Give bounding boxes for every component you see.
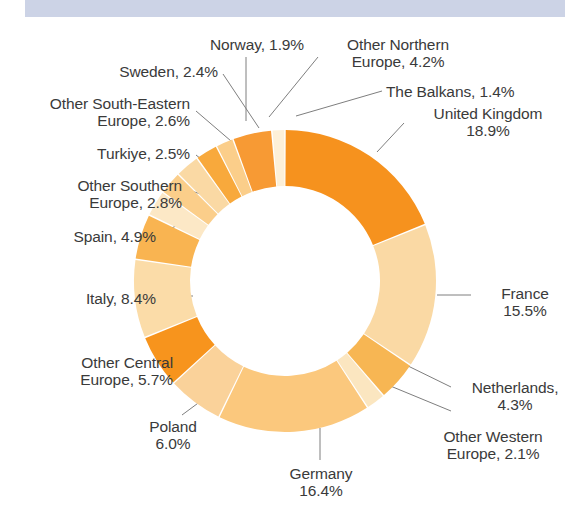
leader-sweden — [223, 74, 259, 128]
leader-netherlands — [404, 364, 451, 387]
chart-figure: Figure 3. Origin of arrivals by country,… — [0, 0, 580, 521]
leader-other-south-eastern — [196, 111, 231, 141]
callout-netherlands: Netherlands, 4.3% — [455, 379, 575, 414]
callout-other-western: Other Western Europe, 2.1% — [418, 428, 568, 463]
leader-other-northern — [269, 57, 318, 117]
leader-netherlands-2 — [388, 385, 451, 411]
leader-the-balkans — [296, 91, 382, 116]
leader-united-kingdom — [377, 123, 404, 152]
callout-spain: Spain, 4.9% — [36, 228, 156, 245]
callout-other-south-eastern: Other South-Eastern Europe, 2.6% — [3, 95, 190, 130]
callout-other-southern: Other Southern Europe, 2.8% — [30, 177, 182, 212]
callout-turkiye: Turkiye, 2.5% — [50, 145, 190, 162]
callout-germany: Germany 16.4% — [266, 465, 376, 500]
callout-other-northern: Other Northern Europe, 4.2% — [323, 36, 473, 71]
donut-slice[interactable] — [285, 130, 424, 245]
callout-the-balkans: The Balkans, 1.4% — [386, 83, 556, 100]
donut-slices — [134, 130, 436, 432]
callout-other-central: Other Central Europe, 5.7% — [28, 354, 173, 389]
callout-poland: Poland 6.0% — [118, 418, 228, 453]
callout-france: France 15.5% — [475, 285, 575, 320]
callout-italy: Italy, 8.4% — [36, 290, 156, 307]
callout-united-kingdom: United Kingdom 18.9% — [408, 105, 568, 140]
callout-sweden: Sweden, 2.4% — [88, 63, 218, 80]
callout-norway: Norway, 1.9% — [192, 36, 322, 53]
